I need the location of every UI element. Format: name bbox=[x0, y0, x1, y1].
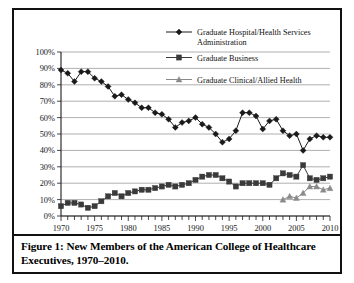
data-point-square bbox=[179, 182, 184, 187]
y-tick-label: 90% bbox=[40, 64, 55, 73]
data-point-diamond bbox=[314, 133, 320, 139]
data-point-square bbox=[220, 176, 225, 181]
data-point-diamond bbox=[186, 118, 192, 124]
x-tick-label: 2005 bbox=[288, 224, 305, 233]
x-tick-label: 1980 bbox=[120, 224, 137, 233]
x-tick-labels: 197019751980198519901995200020052010 bbox=[53, 224, 339, 233]
data-point-diamond bbox=[327, 134, 333, 140]
data-point-square bbox=[227, 179, 232, 184]
data-point-diamond bbox=[112, 93, 118, 99]
data-point-square bbox=[280, 171, 285, 176]
figure-caption: Figure 1: New Members of the American Co… bbox=[21, 239, 333, 267]
data-point-square bbox=[112, 190, 117, 195]
data-point-square bbox=[85, 205, 90, 210]
data-point-square bbox=[200, 174, 205, 179]
y-tick-label: 80% bbox=[40, 81, 55, 90]
x-tick-label: 2010 bbox=[322, 224, 339, 233]
data-point-square bbox=[287, 172, 292, 177]
data-point-diamond bbox=[253, 113, 259, 119]
legend-label: Graduate Business bbox=[197, 54, 258, 63]
figure-container: 0%10%20%30%40%50%60%70%80%90%100% 197019… bbox=[12, 8, 342, 274]
data-point-square bbox=[105, 194, 110, 199]
y-tick-labels: 0%10%20%30%40%50%60%70%80%90%100% bbox=[35, 48, 55, 221]
data-point-triangle bbox=[327, 185, 333, 191]
data-point-square bbox=[213, 172, 218, 177]
data-point-square bbox=[253, 181, 258, 186]
y-tick-label: 0% bbox=[44, 212, 55, 221]
y-tick-label: 30% bbox=[40, 163, 55, 172]
x-tick-label: 1970 bbox=[53, 224, 70, 233]
data-point-square bbox=[153, 186, 158, 191]
data-point-square bbox=[92, 204, 97, 209]
y-tick-label: 40% bbox=[40, 146, 55, 155]
data-point-square bbox=[294, 174, 299, 179]
x-tick-label: 1990 bbox=[187, 224, 204, 233]
data-point-diamond bbox=[320, 134, 326, 140]
data-point-square bbox=[72, 200, 77, 205]
data-point-square bbox=[99, 199, 104, 204]
x-tick-label: 1975 bbox=[86, 224, 103, 233]
y-tick-label: 60% bbox=[40, 114, 55, 123]
data-point-diamond bbox=[293, 131, 299, 137]
data-point-square bbox=[274, 176, 279, 181]
data-point-square bbox=[321, 176, 326, 181]
data-point-diamond bbox=[176, 29, 182, 35]
data-point-square bbox=[186, 181, 191, 186]
series-markers bbox=[58, 67, 333, 210]
chart-plot-region: 0%10%20%30%40%50%60%70%80%90%100% 197019… bbox=[14, 10, 340, 238]
data-point-square bbox=[327, 174, 332, 179]
y-tick-label: 50% bbox=[40, 130, 55, 139]
data-point-square bbox=[267, 182, 272, 187]
data-point-square bbox=[240, 181, 245, 186]
y-tick-label: 100% bbox=[35, 48, 55, 57]
data-point-square bbox=[79, 202, 84, 207]
data-point-square bbox=[173, 184, 178, 189]
data-point-square bbox=[206, 172, 211, 177]
data-point-diamond bbox=[307, 136, 313, 142]
x-tick-label: 1995 bbox=[221, 224, 238, 233]
data-point-square bbox=[166, 182, 171, 187]
data-point-diamond bbox=[78, 69, 84, 75]
data-point-square bbox=[314, 177, 319, 182]
data-point-square bbox=[301, 163, 306, 168]
data-point-square bbox=[58, 204, 63, 209]
data-point-square bbox=[159, 184, 164, 189]
data-point-diamond bbox=[300, 147, 306, 153]
data-point-square bbox=[119, 194, 124, 199]
data-point-square bbox=[126, 190, 131, 195]
data-point-square bbox=[139, 187, 144, 192]
data-point-square bbox=[307, 176, 312, 181]
legend-label: Graduate Clinical/Allied Health bbox=[197, 76, 302, 85]
y-tick-label: 20% bbox=[40, 179, 55, 188]
x-tick-label: 2000 bbox=[254, 224, 271, 233]
data-point-square bbox=[146, 187, 151, 192]
legend-label-continued: Administration bbox=[197, 38, 247, 47]
data-point-diamond bbox=[246, 110, 252, 116]
data-point-square bbox=[260, 181, 265, 186]
data-point-diamond bbox=[240, 110, 246, 116]
data-point-square bbox=[247, 181, 252, 186]
data-point-square bbox=[176, 55, 181, 60]
data-point-square bbox=[65, 200, 70, 205]
data-point-square bbox=[132, 189, 137, 194]
legend-label: Graduate Hospital/Health Services bbox=[197, 28, 311, 37]
chart-legend: Graduate Hospital/Health ServicesAdminis… bbox=[166, 28, 311, 85]
figure-caption-box: Figure 1: New Members of the American Co… bbox=[14, 234, 340, 272]
data-point-square bbox=[233, 184, 238, 189]
data-point-triangle bbox=[287, 193, 293, 199]
y-tick-label: 10% bbox=[40, 196, 55, 205]
data-point-diamond bbox=[273, 116, 279, 122]
x-tick-label: 1985 bbox=[154, 224, 171, 233]
data-point-diamond bbox=[58, 67, 64, 73]
data-point-square bbox=[193, 177, 198, 182]
line-chart: 0%10%20%30%40%50%60%70%80%90%100% 197019… bbox=[14, 10, 340, 238]
y-tick-label: 70% bbox=[40, 97, 55, 106]
